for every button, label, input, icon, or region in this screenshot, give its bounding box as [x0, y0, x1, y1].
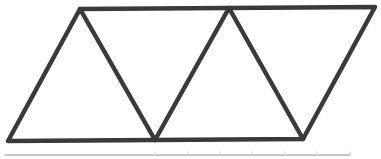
diagonal-edge	[80, 9, 155, 140]
bottom-ruler-strip	[5, 152, 350, 155]
diagonal-edge	[229, 8, 303, 139]
triangle-strip-diagram	[0, 0, 381, 159]
diagonal-edge	[155, 8, 229, 140]
triangle-diagonals	[80, 8, 303, 140]
